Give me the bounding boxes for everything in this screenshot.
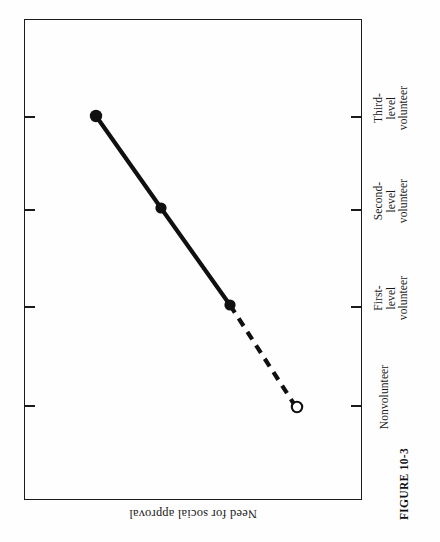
value-tick-4 [24,116,35,118]
figure-caption: FIGURE 10-3 [398,448,410,520]
category-label-line: volunteer [397,228,410,368]
plot-frame [24,19,362,500]
category-tick-first-level [351,306,362,308]
category-tick-third-level [351,116,362,118]
category-label-nonvolunteer: Nonvolunteer [378,327,391,467]
value-tick-2 [24,306,35,308]
category-tick-second-level [351,209,362,211]
axis-title-need-for-social-approval: Need for social approval [24,506,362,521]
value-tick-3 [24,209,35,211]
category-label-line: Nonvolunteer [378,327,391,467]
figure-page: Third- level volunteer Second- level vol… [0,0,440,542]
value-tick-1 [24,405,35,407]
category-tick-nonvolunteer [351,405,362,407]
